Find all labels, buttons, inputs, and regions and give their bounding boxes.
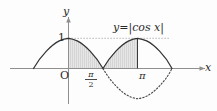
origin-label: O — [60, 70, 69, 81]
shaded-region-0-to-pi-over-2 — [69, 38, 104, 68]
fraction-denominator: 2 — [84, 80, 98, 90]
fraction-numerator: π — [84, 70, 98, 79]
curve-cos-x-negative-dashed — [103, 69, 172, 99]
x-tick-label-pi-over-two: π 2 — [84, 70, 98, 90]
curve-abs-cos-x — [34, 38, 173, 68]
y-tick-label-one: 1 — [58, 32, 65, 43]
shaded-region-pi-over-2-to-pi — [103, 38, 138, 68]
math-figure-cos-abs: y x 1 O π 2 π y=|cos x| — [0, 0, 217, 111]
x-tick-label-pi: π — [139, 71, 146, 81]
y-axis-label: y — [63, 6, 69, 17]
plot-canvas — [0, 0, 217, 111]
curve-equation-label: y=|cos x| — [113, 22, 164, 33]
x-axis-label: x — [205, 62, 211, 73]
